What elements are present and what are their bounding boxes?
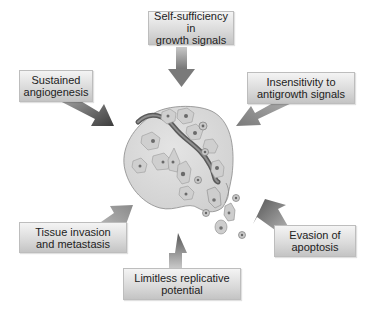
label-line: and metastasis [35, 238, 110, 250]
label-line: angiogenesis [24, 86, 89, 98]
label-line: Limitless replicative [134, 272, 229, 284]
label-line: Self-sufficiency in [152, 10, 230, 34]
label-limitless: Limitless replicative potential [123, 268, 241, 300]
label-line: Sustained [24, 74, 89, 86]
label-line: apoptosis [289, 241, 340, 253]
arrow-limitless [169, 233, 187, 268]
label-line: antigrowth signals [257, 88, 345, 100]
label-tissue-invasion: Tissue invasion and metastasis [19, 222, 127, 253]
label-insensitivity: Insensitivity to antigrowth signals [247, 72, 355, 104]
label-line: Insensitivity to [257, 76, 345, 88]
label-self-sufficiency: Self-sufficiency in growth signals [148, 11, 234, 45]
arrow-self-sufficiency [168, 47, 195, 87]
label-angiogenesis: Sustained angiogenesis [19, 70, 93, 102]
label-evasion: Evasion of apoptosis [274, 225, 356, 257]
label-line: Tissue invasion [35, 226, 110, 238]
label-line: growth signals [152, 34, 230, 46]
tumor-tissue-icon [124, 106, 246, 238]
label-line: Evasion of [289, 229, 340, 241]
label-line: potential [134, 284, 229, 296]
